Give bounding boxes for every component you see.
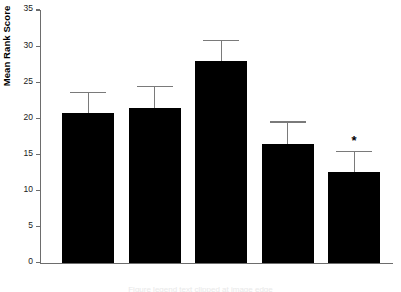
- bar[interactable]: [328, 172, 380, 263]
- y-tick-25: 25: [36, 82, 40, 83]
- error-bar-cap: [70, 92, 106, 93]
- y-tick-label: 15: [24, 148, 33, 159]
- y-axis-title: Mean Rank Score: [0, 0, 14, 106]
- y-tick-label: 0: [28, 256, 33, 267]
- bar[interactable]: [262, 144, 314, 262]
- plot-area: 05101520253035 ControlPre-ConceptConcept…: [40, 10, 393, 264]
- error-bar-cap: [270, 121, 306, 122]
- y-tick-30: 30: [36, 46, 40, 47]
- bar[interactable]: [62, 113, 114, 263]
- y-tick-label: 30: [24, 40, 33, 51]
- error-bar-cap: [336, 151, 372, 152]
- error-bar-stem: [287, 123, 288, 145]
- bar[interactable]: [129, 108, 181, 262]
- y-tick-label: 20: [24, 112, 33, 123]
- error-bar-stem: [354, 152, 355, 171]
- y-tick-label: 35: [24, 3, 33, 14]
- y-tick-15: 15: [36, 154, 40, 155]
- y-tick-label: 5: [28, 220, 33, 231]
- y-tick-0: 0: [36, 262, 40, 263]
- y-tick-20: 20: [36, 118, 40, 119]
- significance-asterisk: *: [328, 136, 380, 146]
- bar[interactable]: [195, 61, 247, 263]
- y-tick-label: 10: [24, 184, 33, 195]
- y-tick-10: 10: [36, 190, 40, 191]
- bar-chart: Mean Rank Score 05101520253035 ControlPr…: [0, 0, 401, 292]
- error-bar-cap: [203, 40, 239, 41]
- error-bar-stem: [154, 87, 155, 108]
- error-bar-cap: [137, 86, 173, 87]
- y-tick-5: 5: [36, 226, 40, 227]
- y-tick-label: 25: [24, 76, 33, 87]
- x-axis-line: [40, 263, 393, 264]
- y-axis-line: [40, 10, 41, 264]
- clipped-caption: Figure legend text clipped at image edge: [0, 284, 401, 292]
- y-tick-35: 35: [36, 9, 40, 10]
- error-bar-stem: [221, 41, 222, 60]
- error-bar-stem: [88, 93, 89, 112]
